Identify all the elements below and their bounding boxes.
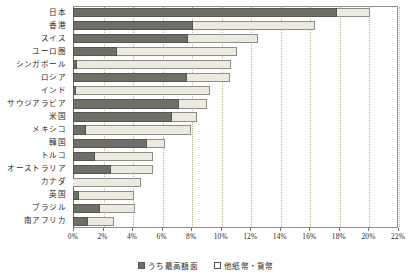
- x-tick-label: 8%: [186, 232, 196, 241]
- category-label-6: インド: [41, 87, 66, 95]
- bar-segment-highest-denomination: [73, 34, 188, 43]
- legend-label: 他紙幣・貨幣: [224, 260, 274, 271]
- legend-item-0: うち最高額面: [138, 260, 198, 271]
- bar-row: [73, 60, 398, 69]
- bar-row: [73, 125, 398, 134]
- legend-swatch-filled-icon: [138, 262, 145, 269]
- category-label-14: 英国: [49, 191, 66, 199]
- bar-row: [73, 21, 398, 30]
- category-label-3: ユーロ圏: [32, 48, 66, 56]
- x-tick-label: 12%: [243, 232, 257, 241]
- x-tick-mark: [280, 228, 281, 231]
- category-label-4: シンガポール: [16, 61, 66, 69]
- x-tick-mark: [73, 228, 74, 231]
- x-tick-label: 16%: [302, 232, 316, 241]
- bar-segment-highest-denomination: [73, 8, 337, 17]
- x-tick-label: 0%: [68, 232, 78, 241]
- bar-segment-highest-denomination: [73, 99, 179, 108]
- bar-segment-highest-denomination: [73, 112, 172, 121]
- category-label-8: 米国: [49, 113, 66, 121]
- bar-segment-other-notes-coins: [95, 152, 153, 161]
- bar-segment-highest-denomination: [73, 47, 117, 56]
- bar-segment-other-notes-coins: [73, 178, 141, 187]
- category-label-16: 南アフリカ: [24, 217, 66, 225]
- category-label-13: カナダ: [41, 178, 66, 186]
- bar-segment-other-notes-coins: [147, 139, 165, 148]
- category-label-10: 韓国: [49, 139, 66, 147]
- bar-segment-other-notes-coins: [337, 8, 370, 17]
- category-label-2: スイス: [41, 35, 66, 43]
- x-tick-label: 14%: [273, 232, 287, 241]
- x-tick-mark: [221, 228, 222, 231]
- category-label-11: トルコ: [41, 152, 66, 160]
- x-tick-mark: [162, 228, 163, 231]
- category-label-9: メキシコ: [32, 126, 66, 134]
- legend-swatch-open-icon: [214, 262, 221, 269]
- bar-segment-other-notes-coins: [172, 112, 197, 121]
- x-tick-label: 4%: [127, 232, 137, 241]
- bar-segment-other-notes-coins: [179, 99, 207, 108]
- bar-segment-highest-denomination: [73, 217, 88, 226]
- bar-row: [73, 152, 398, 161]
- x-tick-mark: [132, 228, 133, 231]
- chart-legend: うち最高額面他紙幣・貨幣: [0, 260, 412, 271]
- bar-segment-other-notes-coins: [187, 73, 230, 82]
- bar-segment-other-notes-coins: [117, 47, 237, 56]
- chart-container: 日本香港スイスユーロ圏シンガポールロシアインドサウジアラビア米国メキシコ韓国トル…: [0, 0, 412, 274]
- category-axis-labels: 日本香港スイスユーロ圏シンガポールロシアインドサウジアラビア米国メキシコ韓国トル…: [0, 6, 70, 228]
- bar-segment-other-notes-coins: [79, 191, 134, 200]
- legend-label: うち最高額面: [148, 260, 198, 271]
- x-tick-label: 6%: [156, 232, 166, 241]
- bar-segment-highest-denomination: [73, 204, 100, 213]
- bar-segment-other-notes-coins: [77, 60, 231, 69]
- bar-segment-other-notes-coins: [88, 217, 115, 226]
- bar-row: [73, 8, 398, 17]
- x-tick-label: 10%: [214, 232, 228, 241]
- bar-segment-other-notes-coins: [193, 21, 316, 30]
- bar-row: [73, 73, 398, 82]
- bar-segment-other-notes-coins: [76, 86, 210, 95]
- category-label-0: 日本: [49, 9, 66, 17]
- category-label-12: オーストラリア: [7, 165, 66, 173]
- bar-segment-highest-denomination: [73, 152, 95, 161]
- bar-segment-highest-denomination: [73, 165, 111, 174]
- bar-segment-other-notes-coins: [86, 125, 191, 134]
- bar-segment-highest-denomination: [73, 125, 86, 134]
- bar-row: [73, 204, 398, 213]
- bar-row: [73, 99, 398, 108]
- x-tick-mark: [398, 228, 399, 231]
- x-tick-label: 20%: [361, 232, 375, 241]
- x-tick-mark: [103, 228, 104, 231]
- legend-item-1: 他紙幣・貨幣: [214, 260, 274, 271]
- bar-segment-other-notes-coins: [188, 34, 257, 43]
- bar-row: [73, 165, 398, 174]
- bar-segment-other-notes-coins: [100, 204, 135, 213]
- bar-row: [73, 217, 398, 226]
- category-label-1: 香港: [49, 22, 66, 30]
- bar-row: [73, 47, 398, 56]
- bar-rows: [73, 6, 398, 228]
- bar-row: [73, 34, 398, 43]
- bar-row: [73, 191, 398, 200]
- x-tick-label: 2%: [97, 232, 107, 241]
- x-tick-mark: [309, 228, 310, 231]
- x-tick-mark: [339, 228, 340, 231]
- x-tick-mark: [368, 228, 369, 231]
- x-tick-label: 18%: [332, 232, 346, 241]
- x-tick-label: 22%: [391, 232, 405, 241]
- bar-segment-highest-denomination: [73, 139, 147, 148]
- x-axis: 0%2%4%6%8%10%12%14%16%18%20%22%: [73, 228, 398, 244]
- category-label-7: サウジアラビア: [7, 100, 66, 108]
- x-tick-mark: [250, 228, 251, 231]
- bar-segment-highest-denomination: [73, 21, 193, 30]
- bar-row: [73, 139, 398, 148]
- bar-row: [73, 178, 398, 187]
- gridline-22pct: [399, 7, 401, 227]
- x-tick-mark: [191, 228, 192, 231]
- category-label-15: ブラジル: [32, 204, 66, 212]
- category-label-5: ロシア: [41, 74, 66, 82]
- bar-segment-highest-denomination: [73, 73, 187, 82]
- bar-row: [73, 86, 398, 95]
- bar-row: [73, 112, 398, 121]
- bar-segment-other-notes-coins: [111, 165, 152, 174]
